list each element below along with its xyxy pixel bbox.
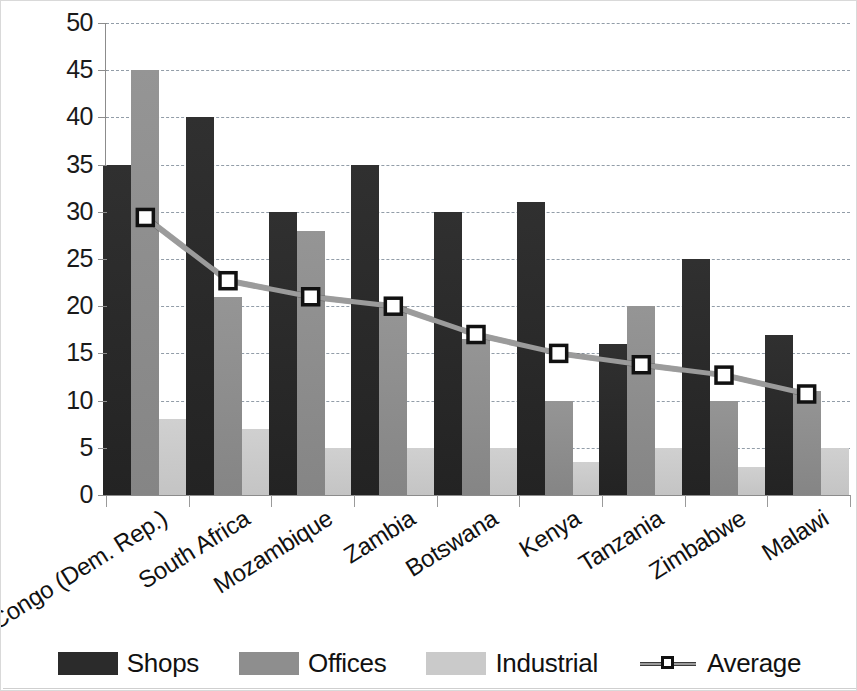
- x-axis-tick: [271, 495, 272, 507]
- y-axis-tick-label: 40: [31, 104, 93, 129]
- x-axis-tick: [602, 495, 603, 507]
- x-axis-tick: [189, 495, 190, 507]
- y-axis-tick-label: 35: [31, 152, 93, 177]
- legend-swatch-shops: [58, 652, 118, 675]
- y-axis-tick: [98, 23, 107, 24]
- x-axis-tick: [437, 495, 438, 507]
- average-line-outline: [145, 217, 806, 394]
- average-marker: [303, 289, 319, 305]
- average-marker: [551, 345, 567, 361]
- legend-average-marker-icon: [638, 652, 698, 675]
- y-axis-tick-label: 50: [31, 10, 93, 35]
- y-axis-tick: [98, 70, 107, 71]
- legend-item-offices[interactable]: Offices: [239, 648, 386, 679]
- legend-square-marker-icon: [661, 656, 674, 669]
- y-axis-tick-label: 45: [31, 57, 93, 82]
- legend-item-average[interactable]: Average: [638, 648, 801, 679]
- average-marker: [633, 357, 649, 373]
- legend-label: Shops: [127, 648, 199, 679]
- y-axis-tick: [98, 448, 107, 449]
- x-axis-tick: [767, 495, 768, 507]
- average-marker: [716, 367, 732, 383]
- legend-label: Average: [707, 648, 801, 679]
- x-axis-tick: [354, 495, 355, 507]
- y-axis-labels: 50454035302520151050: [1, 1, 93, 691]
- y-axis-tick-label: 10: [31, 388, 93, 413]
- y-axis-tick: [98, 259, 107, 260]
- chart-legend: ShopsOfficesIndustrialAverage: [1, 637, 857, 689]
- y-axis-tick: [98, 117, 107, 118]
- legend-divider: [3, 688, 856, 689]
- y-axis-tick: [98, 495, 107, 496]
- legend-swatch-industrial: [426, 652, 486, 675]
- x-axis-tick: [685, 495, 686, 507]
- legend-swatch-offices: [239, 652, 299, 675]
- y-axis-tick-label: 25: [31, 246, 93, 271]
- y-axis-tick: [98, 401, 107, 402]
- plot-area: [106, 23, 850, 495]
- average-marker: [799, 386, 815, 402]
- legend-item-industrial[interactable]: Industrial: [426, 648, 598, 679]
- x-axis-tick: [519, 495, 520, 507]
- legend-label: Offices: [308, 648, 386, 679]
- average-marker: [220, 273, 236, 289]
- average-marker: [468, 327, 484, 343]
- average-line-series: [106, 23, 850, 495]
- x-axis-tick: [106, 495, 107, 507]
- y-axis-tick-label: 30: [31, 199, 93, 224]
- chart-container: 50454035302520151050 Congo (Dem. Rep.)So…: [0, 0, 857, 691]
- y-axis-tick: [98, 306, 107, 307]
- y-axis-tick-label: 0: [31, 482, 93, 507]
- average-line-path: [145, 217, 806, 394]
- x-axis-tick: [850, 495, 851, 507]
- y-axis-tick-label: 20: [31, 293, 93, 318]
- y-axis-tick-label: 15: [31, 340, 93, 365]
- average-marker: [137, 209, 153, 225]
- average-marker: [385, 298, 401, 314]
- legend-label: Industrial: [495, 648, 598, 679]
- legend-item-shops[interactable]: Shops: [58, 648, 199, 679]
- y-axis-tick: [98, 353, 107, 354]
- y-axis-tick: [98, 212, 107, 213]
- y-axis-tick-label: 5: [31, 435, 93, 460]
- y-axis-tick: [98, 165, 107, 166]
- x-axis-line: [106, 495, 851, 496]
